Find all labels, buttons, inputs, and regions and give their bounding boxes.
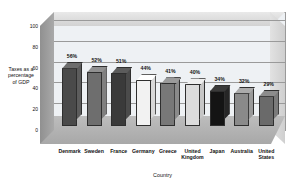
y-tick-label: 100 [26,23,38,29]
bar-front-face [87,72,102,126]
bar-series: 56%52%51%44%41%40%34%32%29% [40,12,285,144]
bar-greece: 41% [160,83,175,126]
x-axis-title: Country [40,172,285,178]
x-tick-label: UnitedStates [248,148,284,160]
y-axis-title-line-3: of GDP [1,79,41,85]
bar-value-label: 51% [108,58,134,64]
y-tick-label: 0 [26,127,38,133]
y-tick-label: 20 [26,107,38,113]
bar-side-face [76,62,82,120]
y-tick-label: 60 [26,65,38,71]
bar-front-face [136,80,151,126]
bar-value-label: 29% [256,81,282,87]
bar-united-states: 29% [259,96,274,126]
x-axis-labels: DenmarkSwedenFranceGermanyGreeceUnitedKi… [40,148,285,170]
bar-value-label: 32% [231,78,257,84]
bar-front-face [160,83,175,126]
bar-value-label: 56% [59,53,85,59]
bar-side-wrap [76,62,83,120]
bar-sweden: 52% [87,72,102,126]
bar-australia: 32% [234,93,249,126]
bar-value-label: 41% [157,68,183,74]
bar-germany: 44% [136,80,151,126]
bar-side-wrap [125,67,132,120]
x-tick-label-line: States [248,154,284,160]
bar-value-label: 52% [84,57,110,63]
bar-japan: 34% [210,91,225,126]
bar-value-label: 40% [182,69,208,75]
y-tick-label: 80 [26,44,38,50]
bar-value-label: 34% [207,76,233,82]
y-tick-label: 40 [26,86,38,92]
bar-side-wrap [101,66,108,120]
bar-side-face [125,67,131,120]
x-tick-label-line: Kingdom [175,154,211,160]
bar-front-face [259,96,274,126]
bar-front-face [234,93,249,126]
bar-front-face [111,73,126,126]
bar-front-face [210,91,225,126]
bar-value-label: 44% [133,65,159,71]
bar-front-face [185,84,200,126]
bar-united-kingdom: 40% [185,84,200,126]
bar-denmark: 56% [62,68,77,126]
bar-france: 51% [111,73,126,126]
bar-side-face [101,66,107,120]
chart-container: Taxes as a percentage of GDP 02040608010… [0,0,295,186]
bar-front-face [62,68,77,126]
